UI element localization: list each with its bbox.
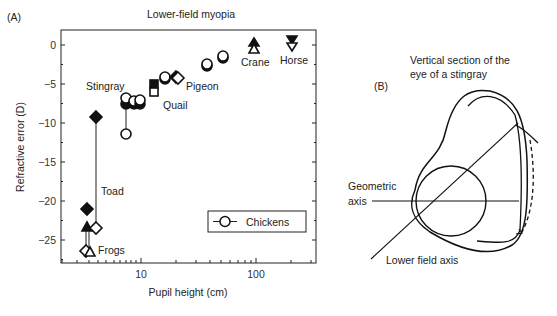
frog-filled-diamond: [81, 203, 93, 215]
svg-text:Quail: Quail: [163, 99, 188, 111]
svg-text:Stingray: Stingray: [86, 80, 125, 92]
panel-b-title-line2: eye of a stingray: [410, 68, 488, 80]
panel-a: (A) Lower-field myopia: [7, 8, 316, 298]
legend-label: Chickens: [246, 216, 289, 228]
figure: (A) Lower-field myopia: [0, 0, 557, 316]
svg-text:10: 10: [135, 268, 147, 280]
x-tick-labels: 10 100: [135, 268, 265, 280]
panel-b-title-line1: Vertical section of the: [410, 54, 510, 66]
legend-circle-icon: [220, 217, 230, 227]
svg-text:−20: −20: [38, 195, 56, 207]
y-axis-label: Refractive error (D): [14, 102, 26, 192]
toad-open-diamond: [90, 222, 102, 234]
svg-text:−10: −10: [38, 117, 56, 129]
geometric-axis-label-line2: axis: [348, 195, 367, 207]
x-ticks: [62, 258, 311, 263]
panel-a-label: (A): [7, 11, 21, 23]
svg-text:−15: −15: [38, 156, 56, 168]
legend: Chickens: [208, 211, 306, 232]
svg-text:Frogs: Frogs: [98, 244, 125, 256]
toad-filled-diamond: [90, 111, 102, 123]
retina-arc: [468, 96, 521, 242]
y-tick-labels: 0 −5 −10 −15 −20 −25: [38, 39, 56, 246]
chart-title: Lower-field myopia: [147, 8, 235, 20]
svg-text:Toad: Toad: [101, 185, 124, 197]
svg-text:0: 0: [50, 39, 56, 51]
svg-text:−5: −5: [44, 78, 56, 90]
svg-text:100: 100: [247, 268, 265, 280]
panel-b-label: (B): [374, 80, 388, 92]
svg-text:−25: −25: [38, 234, 56, 246]
svg-text:Horse: Horse: [280, 54, 308, 66]
panel-b: (B) Vertical section of the eye of a sti…: [348, 54, 538, 266]
geometric-axis-label-line1: Geometric: [348, 180, 396, 192]
svg-text:Crane: Crane: [241, 56, 270, 68]
x-axis-label: Pupil height (cm): [149, 286, 228, 298]
lower-field-axis-label: Lower field axis: [386, 254, 458, 266]
svg-text:Pigeon: Pigeon: [186, 80, 219, 92]
